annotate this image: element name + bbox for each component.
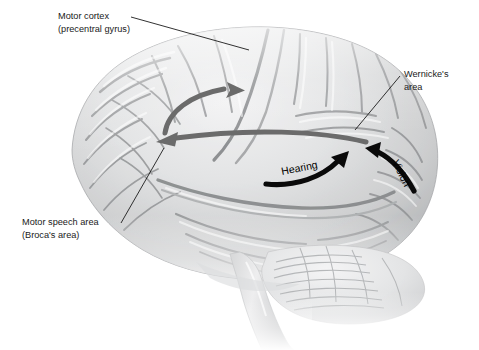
- label-wernicke-line1: Wernicke's: [404, 69, 449, 79]
- brain-diagram-figure: Motor cortex (precentral gyrus) Wernicke…: [0, 0, 479, 350]
- label-motor-cortex-line2: (precentral gyrus): [58, 24, 130, 34]
- brain-diagram-svg: Motor cortex (precentral gyrus) Wernicke…: [0, 0, 479, 350]
- label-broca-line1: Motor speech area: [22, 217, 99, 227]
- label-broca-line2: (Broca's area): [22, 230, 79, 240]
- label-wernicke-line2: area: [404, 82, 423, 92]
- label-motor-cortex-line1: Motor cortex: [58, 11, 109, 21]
